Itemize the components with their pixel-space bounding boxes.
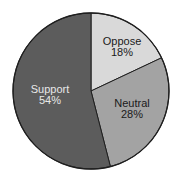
- pie-chart: Oppose 18% Neutral 28% Support 54%: [0, 0, 179, 184]
- slice-value-neutral: 28%: [121, 108, 143, 120]
- slice-value-support: 54%: [39, 94, 61, 106]
- slice-value-oppose: 18%: [111, 46, 133, 58]
